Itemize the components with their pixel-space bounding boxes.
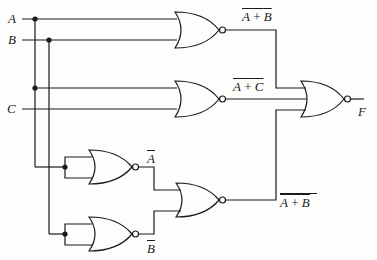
inverter-input-brackets [65,157,92,245]
g3-output-label: A + B [280,196,310,209]
junction-dots [32,16,67,236]
input-wires [22,19,177,234]
nor-gate-2 [175,81,226,117]
g2-plus: + [241,79,255,94]
output-label-f: F [358,105,366,118]
g2-term-c: C [255,79,264,94]
g3-term-not-b: B [302,195,310,210]
nor-gate-not-b [89,217,139,251]
nor-gate-not-a [89,150,139,184]
g2-term-a: A [233,79,241,94]
g3-outer-overbar [280,193,317,194]
input-label-a: A [8,12,16,25]
g3-plus: + [288,195,302,210]
not-a-label: A [147,152,155,165]
circuit-wiring [0,0,377,260]
input-label-c: C [7,102,16,115]
internal-wires [139,30,365,234]
logic-circuit-diagram: A B C F A + B A + C A B A + B [0,0,377,260]
not-b-label: B [147,242,155,255]
input-label-b: B [8,33,16,46]
nor-gate-1 [175,12,226,48]
not-b-text: B [147,241,155,256]
g3-term-not-a: A [280,195,288,210]
g1-term-a: A [242,9,250,24]
g1-plus: + [250,9,264,24]
g2-output-label: A + C [233,80,263,93]
g1-term-b: B [264,9,272,24]
nor-gate-output [301,81,351,117]
nor-gate-3 [176,183,226,217]
g1-output-label: A + B [242,10,272,23]
not-a-text: A [147,151,155,166]
